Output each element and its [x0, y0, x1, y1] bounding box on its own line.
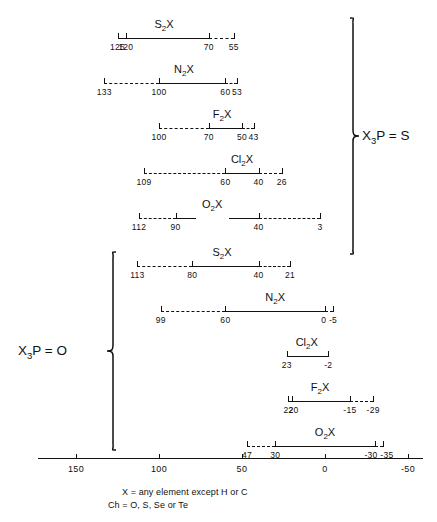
- species-label: O2X: [315, 426, 335, 441]
- range-endcap: [282, 168, 283, 174]
- range-endcap: [209, 123, 210, 129]
- range-endcap: [373, 396, 374, 402]
- range-endcap: [247, 441, 248, 447]
- range-value-label: 133: [97, 87, 112, 97]
- axis-tick: [408, 454, 409, 459]
- range-value-label: 60: [220, 315, 230, 325]
- range-value-label: 113: [130, 270, 144, 280]
- range-value-label: 40: [254, 222, 264, 232]
- range-segment-dashed: [161, 311, 226, 312]
- range-endcap: [234, 33, 235, 39]
- range-endcap: [287, 351, 288, 357]
- range-value-label: 3: [318, 222, 323, 232]
- range-row: Cl2X109604026: [0, 147, 437, 193]
- range-endcap: [159, 123, 160, 129]
- range-value-label: 90: [171, 222, 181, 232]
- species-label: Cl2X: [231, 153, 253, 168]
- range-segment-dashed: [350, 401, 373, 402]
- range-value-label: 99: [156, 315, 166, 325]
- range-value-label: 26: [277, 177, 287, 187]
- range-row: S2X1251207055: [0, 12, 437, 58]
- range-segment-dashed: [259, 266, 291, 267]
- range-value-label: 70: [204, 132, 214, 142]
- range-endcap: [259, 261, 260, 267]
- range-segment-dashed: [104, 83, 159, 84]
- range-endcap: [328, 351, 329, 357]
- range-segment-dashed: [139, 218, 176, 219]
- range-value-label: 50: [237, 132, 247, 142]
- range-row: S2X113804021: [0, 240, 437, 286]
- range-value-label: -2: [324, 360, 332, 370]
- range-endcap: [225, 306, 226, 312]
- range-value-label: 100: [151, 132, 166, 142]
- range-endcap: [161, 306, 162, 312]
- species-label: S2X: [213, 246, 232, 261]
- group-label-x3p-s: X3P = S: [362, 128, 409, 146]
- range-value-label: 0 -5: [321, 315, 337, 325]
- range-segment-solid: [292, 401, 350, 402]
- caption-line-2: Ch = O, S, Se or Te: [108, 500, 188, 510]
- range-endcap: [375, 441, 376, 447]
- range-segment-dashed: [137, 266, 192, 267]
- species-label: N2X: [174, 63, 194, 78]
- axis-tick: [76, 454, 77, 459]
- axis-tick: [242, 454, 243, 459]
- range-segment-solid: [126, 38, 209, 39]
- range-endcap: [290, 261, 291, 267]
- caption-line-1: X = any element except H or C: [122, 487, 248, 497]
- range-endcap: [288, 396, 289, 402]
- axis-tick-label: 0: [322, 464, 327, 474]
- species-label: Cl2X: [296, 336, 318, 351]
- range-endcap: [333, 306, 334, 312]
- range-endcap: [104, 78, 105, 84]
- range-endcap: [242, 123, 243, 129]
- range-endcap: [225, 78, 226, 84]
- range-value-label: 70: [204, 42, 214, 52]
- range-segment-solid: [225, 311, 325, 312]
- range-segment-dashed: [247, 446, 275, 447]
- range-segment-solid: [176, 218, 196, 219]
- range-endcap: [383, 441, 384, 447]
- chemical-shift-axis: [38, 458, 423, 459]
- range-endcap: [254, 123, 255, 129]
- range-endcap: [225, 168, 226, 174]
- range-endcap: [259, 168, 260, 174]
- range-segment-solid: [209, 128, 242, 129]
- range-segment-solid: [192, 266, 258, 267]
- species-label: O2X: [202, 198, 222, 213]
- range-segment-solid: [118, 38, 126, 39]
- range-segment-dashed: [259, 173, 282, 174]
- range-segment-dashed: [225, 83, 237, 84]
- axis-tick-label: -50: [401, 464, 415, 474]
- species-label: F2X: [213, 108, 232, 123]
- range-endcap: [237, 78, 238, 84]
- range-segment-dashed: [375, 446, 383, 447]
- axis-tick-label: 150: [68, 464, 84, 474]
- range-segment-dashed: [159, 128, 209, 129]
- range-segment-dashed: [144, 173, 225, 174]
- range-segment-dashed: [259, 218, 320, 219]
- range-value-label: 112: [132, 222, 146, 232]
- range-row: N2X1331006053: [0, 57, 437, 103]
- range-endcap: [176, 213, 177, 219]
- range-value-label: -29: [367, 405, 380, 415]
- range-endcap: [275, 441, 276, 447]
- range-segment-solid: [229, 218, 259, 219]
- range-endcap: [139, 213, 140, 219]
- axis-tick: [325, 454, 326, 459]
- range-segment-solid: [287, 356, 329, 357]
- range-value-label: 21: [285, 270, 295, 280]
- range-value-label: 53: [232, 87, 242, 97]
- range-row: O2X4730-30 -35: [0, 420, 437, 466]
- range-value-label: 109: [137, 177, 152, 187]
- axis-tick-label: 100: [151, 464, 167, 474]
- range-value-label: 100: [151, 87, 166, 97]
- group-label-x3p-o: X3P = O: [18, 343, 67, 361]
- nmr-shift-range-figure: S2X1251207055N2X1331006053F2X100705043Cl…: [0, 0, 437, 522]
- range-value-label: 80: [187, 270, 197, 280]
- axis-tick: [159, 454, 160, 459]
- species-label: N2X: [265, 291, 285, 306]
- range-endcap: [159, 78, 160, 84]
- range-value-label: 20: [288, 405, 298, 415]
- range-endcap: [292, 396, 293, 402]
